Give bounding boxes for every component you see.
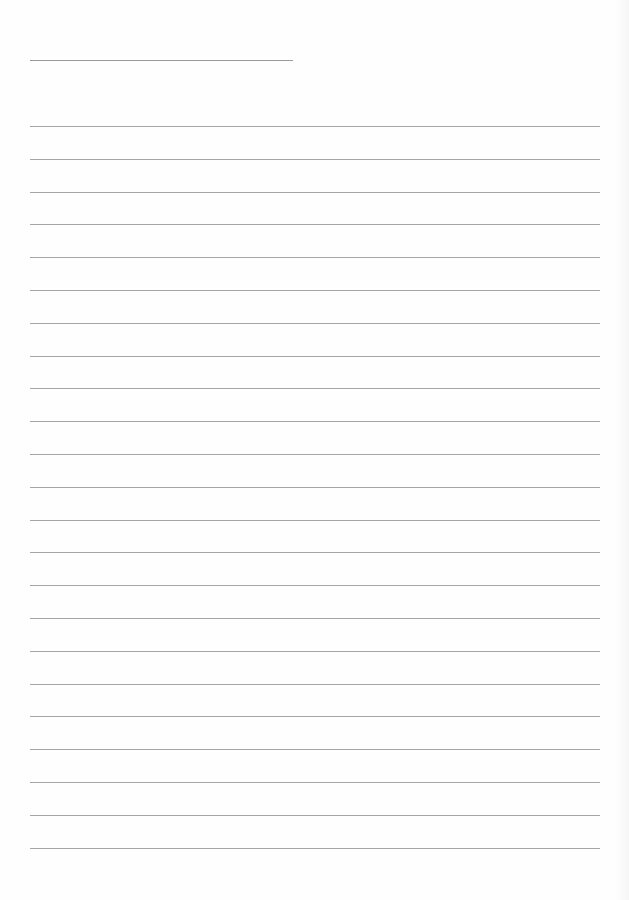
ruled-line [30, 126, 600, 127]
ruled-line [30, 848, 600, 849]
page-edge-shadow [615, 0, 629, 900]
ruled-line [30, 749, 600, 750]
title-line [30, 60, 293, 61]
ruled-line [30, 552, 600, 553]
ruled-line [30, 684, 600, 685]
ruled-line [30, 356, 600, 357]
ruled-line [30, 290, 600, 291]
ruled-line [30, 487, 600, 488]
ruled-line [30, 454, 600, 455]
ruled-line [30, 159, 600, 160]
ruled-line [30, 257, 600, 258]
ruled-line [30, 421, 600, 422]
ruled-line [30, 192, 600, 193]
blank-ruled-page [0, 0, 629, 900]
ruled-line [30, 585, 600, 586]
ruled-line [30, 618, 600, 619]
ruled-line [30, 782, 600, 783]
ruled-line [30, 520, 600, 521]
ruled-line [30, 323, 600, 324]
ruled-line [30, 815, 600, 816]
ruled-line [30, 716, 600, 717]
ruled-line [30, 224, 600, 225]
ruled-line [30, 388, 600, 389]
ruled-line [30, 651, 600, 652]
